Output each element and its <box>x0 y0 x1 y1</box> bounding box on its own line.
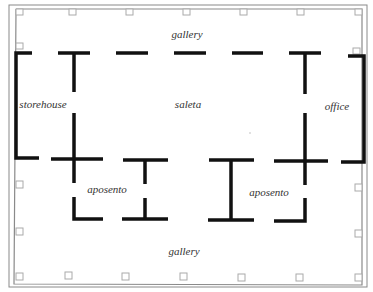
label-saleta: saleta <box>175 98 201 110</box>
walls <box>16 53 364 221</box>
label-aposento-left: aposento <box>87 183 127 195</box>
label-aposento-right: aposento <box>249 186 289 198</box>
label-storehouse: storehouse <box>19 98 66 110</box>
label-gallery-bottom: gallery <box>168 245 199 257</box>
label-office: office <box>325 100 349 112</box>
speck <box>249 132 251 134</box>
pillars <box>16 9 362 281</box>
label-gallery-top: gallery <box>171 28 202 40</box>
